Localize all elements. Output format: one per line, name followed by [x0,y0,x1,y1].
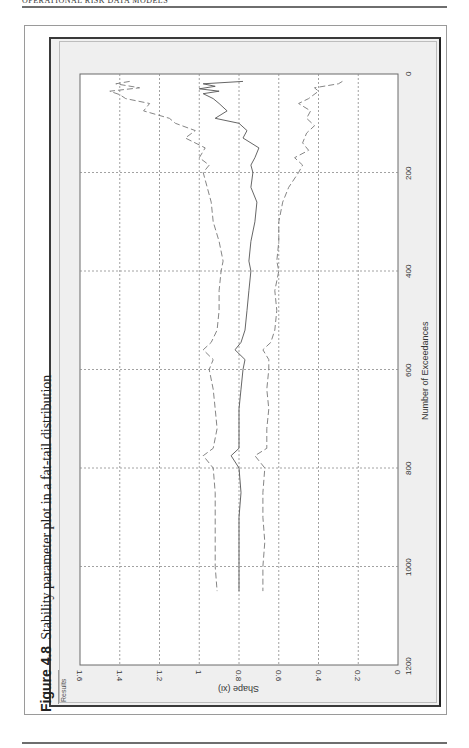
shape-tick-label: 1.6 [75,670,84,681]
shape-tick-label: 1 [194,670,203,674]
shape-axis-title: Shape (xi) [218,684,259,694]
exceedance-tick-label: 800 [404,462,413,475]
exceedance-tick-label: 1000 [404,558,413,576]
shape-tick-label: 1.2 [155,670,164,681]
shape-tick-label: 0 [393,670,402,674]
shape-tick-label: 1.4 [115,670,124,681]
shape-tick-label: 0.8 [234,670,243,681]
shape-tick-label: 0.6 [274,670,283,681]
bottom-rule [22,742,447,744]
exceedance-tick-label: 600 [404,363,413,376]
chart-plot [0,0,469,748]
shape-tick-label: 0.4 [314,670,323,681]
shape-tick-label: 0.2 [353,670,362,681]
exceedance-tick-label: 1200 [404,657,413,675]
exceedance-tick-label: 400 [404,265,413,278]
exceedance-axis-title: Number of Exceedances [420,321,430,420]
exceedance-tick-label: 0 [404,72,413,76]
exceedance-tick-label: 200 [404,166,413,179]
